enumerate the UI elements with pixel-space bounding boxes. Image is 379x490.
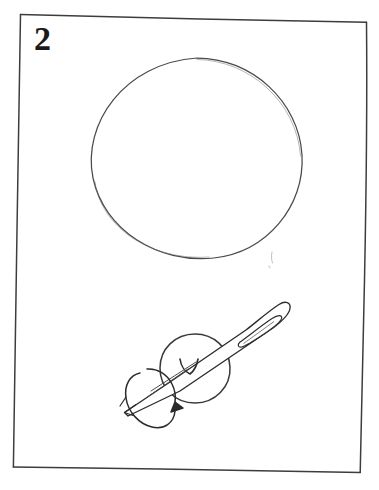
hand-drawn-illustration: [0, 0, 379, 490]
illustration-page: 2: [0, 0, 379, 490]
paper-background: [0, 0, 379, 490]
step-number: 2: [34, 22, 51, 56]
